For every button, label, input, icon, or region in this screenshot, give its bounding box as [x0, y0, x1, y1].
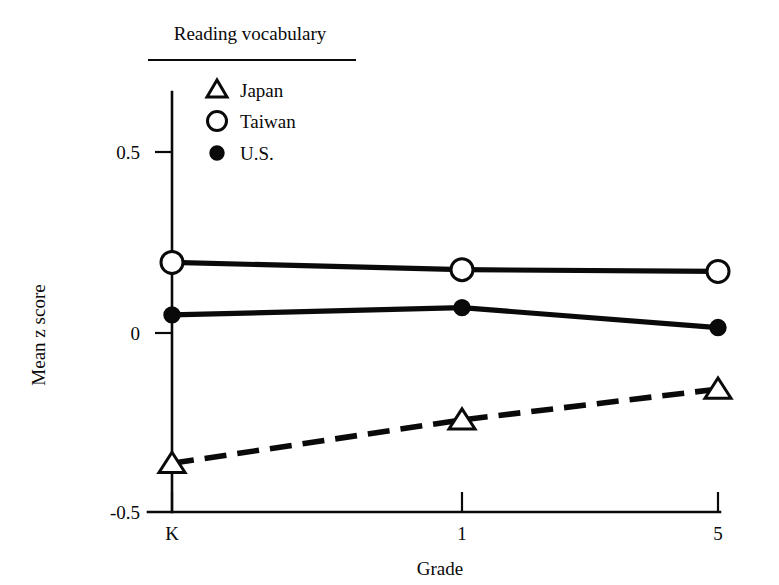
x-tick-label-5: 5: [713, 523, 723, 544]
y-tick-label-upper: 0.5: [116, 142, 140, 163]
legend-item-us: U.S.: [211, 143, 274, 164]
x-tick-label-k: K: [165, 523, 179, 544]
y-tick-label-lower: -0.5: [110, 502, 140, 523]
open-circle-marker-icon: [208, 112, 227, 131]
open-triangle-marker-icon: [207, 80, 227, 97]
legend-item-taiwan: Taiwan: [208, 111, 297, 132]
chart-legend: Reading vocabulary Japan Taiwan U.S.: [148, 23, 356, 164]
legend-label-us: U.S.: [240, 143, 274, 164]
x-axis-title: Grade: [417, 558, 463, 579]
legend-title: Reading vocabulary: [174, 23, 327, 44]
data-point-us-K: [165, 307, 180, 322]
series-line-japan: [172, 389, 718, 463]
y-tick-label-middle: 0: [131, 323, 141, 344]
data-point-taiwan-K: [161, 251, 183, 273]
series-line-us: [172, 308, 718, 328]
data-point-us-1: [455, 300, 470, 315]
chart-figure: Reading vocabulary Japan Taiwan U.S.: [0, 0, 779, 585]
legend-item-japan: Japan: [207, 80, 284, 101]
x-tick-label-1: 1: [457, 523, 467, 544]
legend-label-taiwan: Taiwan: [240, 111, 296, 132]
series-taiwan: [161, 251, 729, 282]
data-point-us-5: [711, 320, 726, 335]
reading-vocabulary-line-chart: Reading vocabulary Japan Taiwan U.S.: [0, 0, 779, 585]
series-markers-us: [165, 300, 726, 335]
data-point-taiwan-1: [451, 259, 473, 281]
series-line-taiwan: [172, 262, 718, 271]
data-point-taiwan-5: [707, 260, 729, 282]
filled-circle-marker-icon: [211, 147, 224, 160]
series-us: [165, 300, 726, 335]
series-japan: [159, 378, 731, 472]
chart-axes: 0.5 0 -0.5 K 1 5 Mean z score Grade: [28, 92, 723, 579]
legend-label-japan: Japan: [240, 80, 284, 101]
y-axis-title: Mean z score: [28, 284, 49, 385]
